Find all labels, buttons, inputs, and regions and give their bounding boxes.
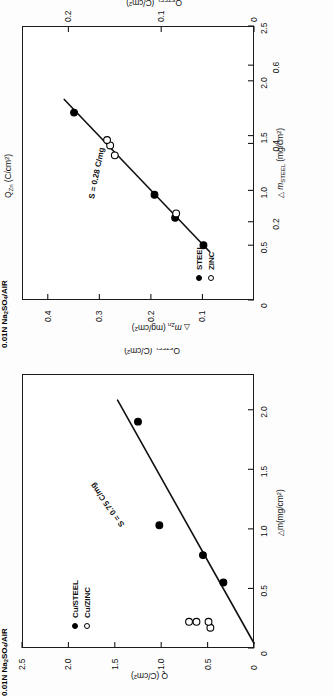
secondary-x-tick-label: 0.2	[272, 219, 281, 230]
y-tick-label: 0.5	[204, 659, 213, 670]
y-tick-label: 0.4	[44, 311, 53, 322]
x-tick-label: 0.5	[260, 242, 269, 253]
legend-label-cu-steel: Cu/STEEL	[72, 580, 80, 618]
data-point-cu-steel	[200, 552, 207, 559]
data-point-steel	[151, 191, 158, 198]
y-tick-label: 0.3	[95, 311, 104, 322]
secondary-x-tick-label: 0.6	[272, 62, 281, 73]
legend-marker-zinc	[208, 275, 214, 281]
data-point-zinc	[173, 210, 180, 217]
chart-panel-zinc-steel: △ mZn (mg/cm2) △ mSTEEL (mg/cm2) QZn (C/…	[0, 0, 334, 348]
y-tick-label: 0.1	[198, 311, 207, 322]
data-point-cu-steel	[220, 579, 227, 586]
x-tick-label: 2.0	[260, 78, 269, 89]
secondary-x-tick-label: 0.4	[272, 140, 281, 151]
data-point-steel	[71, 109, 78, 116]
secondary-y-tick-label: 0	[250, 17, 259, 22]
chart-panel-copper: Q (C/cm2) △m(mg/cm2) QSTEEL (C/cm2) 0.01…	[0, 348, 334, 696]
legend-marker-cu-zinc	[84, 623, 90, 629]
y-tick-label: 0	[250, 665, 259, 670]
legend-label-zinc: ZINC	[208, 252, 216, 270]
x-axis-label-bottom: △m(mg/cm2)	[276, 489, 285, 536]
x-tick-label: 1.5	[260, 132, 269, 143]
secondary-y-axis-label-top: QSTEEL (C/cm2)	[126, 0, 182, 7]
x-tick-label: 0.5	[260, 585, 269, 596]
x-tick-label: 1.0	[260, 187, 269, 198]
y-tick-label: 2.5	[18, 659, 27, 670]
fit-line	[64, 99, 209, 251]
secondary-x-axis-label-top: QZn (C/cm2)	[4, 154, 14, 198]
secondary-y-tick-label: 0.1	[157, 11, 166, 22]
legend-label-cu-zinc: Cu/ZINC	[84, 587, 92, 618]
x-tick-label: 1.5	[260, 466, 269, 477]
x-tick-label: 0	[260, 651, 269, 656]
chart-stage-top: △ mZn (mg/cm2) △ mSTEEL (mg/cm2) QZn (C/…	[0, 0, 334, 348]
secondary-y-tick-label: 0.2	[64, 11, 73, 22]
chart-stage-bottom: Q (C/cm2) △m(mg/cm2) QSTEEL (C/cm2) 0.01…	[0, 348, 334, 696]
data-point-cu-zinc	[205, 618, 212, 625]
legend-marker-steel	[196, 275, 202, 281]
y-tick-label: 2.0	[64, 659, 73, 670]
x-axis-label-top: △ mSTEEL (mg/cm2)	[276, 128, 286, 198]
x-tick-label: 2.0	[260, 407, 269, 418]
x-tick-label: 0	[260, 303, 269, 308]
data-point-zinc	[104, 137, 111, 144]
y-axis-label-bottom: Q (C/cm2)	[131, 671, 168, 680]
fit-line	[118, 400, 254, 643]
figure-page: △ mZn (mg/cm2) △ mSTEEL (mg/cm2) QZn (C/…	[0, 0, 334, 696]
data-point-cu-zinc	[186, 618, 193, 625]
x-tick-label: 1.0	[260, 526, 269, 537]
data-point-zinc	[111, 152, 118, 159]
y-tick-label: 1.5	[111, 659, 120, 670]
legend-label-steel: STEEL	[196, 245, 204, 270]
x-tick-label: 2.5	[260, 23, 269, 34]
y-axis-label-top: △ mZn (mg/cm2)	[132, 322, 190, 332]
legend-marker-cu-steel	[72, 623, 78, 629]
data-point-cu-zinc	[193, 618, 200, 625]
y-tick-label: 1.0	[157, 659, 166, 670]
data-point-cu-steel	[135, 418, 142, 425]
y-tick-label: 0.2	[147, 311, 156, 322]
data-point-cu-steel	[156, 522, 163, 529]
secondary-y-axis-label-bottom: QSTEEL (C/cm2)	[124, 348, 180, 355]
